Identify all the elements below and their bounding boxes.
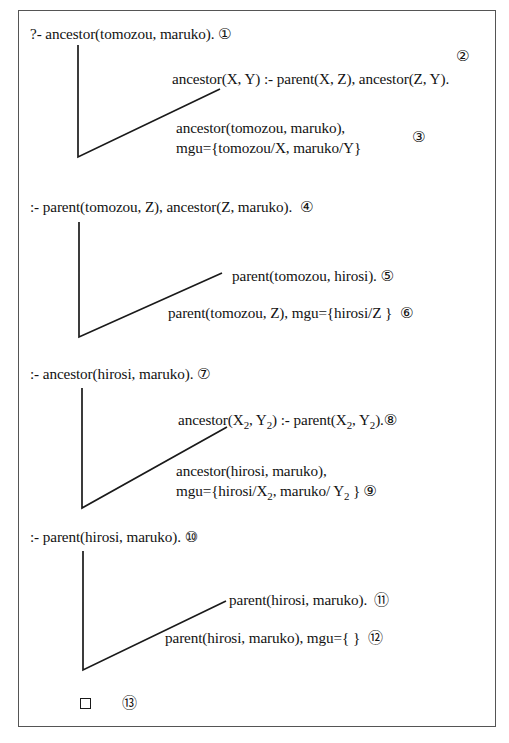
step-9-line-1: ancestor(hirosi, maruko), [176,461,377,481]
step-5-marker: ⑤ [381,267,394,286]
step-5-clause: parent(tomozou, hirosi). ⑤ [232,266,394,286]
step-9-line-2: mgu={hirosi/X2, maruko/ Y2 }⑨ [176,481,377,501]
step-13-marker-wrap: ⑬ [122,693,137,713]
step-6-text: parent(tomozou, Z), mgu={hirosi/Z } [168,304,392,321]
step-8-text-mid: , Y [249,411,267,428]
step-10-marker: ⑩ [185,528,198,547]
step-9-line2-pre: mgu={hirosi/X [176,482,267,499]
step-7-marker: ⑦ [197,365,210,384]
step-1-text: ?- ancestor(tomozou, maruko). [30,25,214,42]
step-6-marker: ⑥ [400,304,413,323]
step-11-clause: parent(hirosi, maruko). ⑪ [229,590,389,610]
step-2-marker-wrap: ② [456,47,469,65]
step-3-line-1: ancestor(tomozou, maruko), [176,118,361,138]
step-8-text-pre: ancestor(X [178,411,244,428]
step-3-marker: ③ [412,128,425,146]
step-3-unification: ancestor(tomozou, maruko), mgu={tomozou/… [176,118,361,158]
step-12-marker: ⑫ [368,629,383,648]
step-8-text-mid2: ) :- parent(X [272,411,347,428]
step-4-goal: :- parent(tomozou, Z), ancestor(Z, maruk… [30,197,313,217]
step-9-unification: ancestor(hirosi, maruko), mgu={hirosi/X2… [176,461,377,501]
step-1-goal: ?- ancestor(tomozou, maruko). ① [30,24,232,44]
step-9-line2-mid: , maruko/ Y [273,482,344,499]
step-7-goal: :- ancestor(hirosi, maruko). ⑦ [30,364,211,384]
step-4-text: :- parent(tomozou, Z), ancestor(Z, maruk… [30,198,292,215]
step-11-marker: ⑪ [374,591,389,610]
step-1-marker: ① [218,25,231,44]
step-3-marker-wrap: ③ [412,128,425,146]
step-13-marker: ⑬ [122,694,137,713]
empty-clause-box-icon [80,698,91,709]
step-12-text: parent(hirosi, maruko), mgu={ } [165,629,360,646]
step-12-unification: parent(hirosi, maruko), mgu={ } ⑫ [165,628,383,648]
step-8-text-post: ). [375,411,384,428]
step-11-text: parent(hirosi, maruko). [229,591,367,608]
step-10-goal: :- parent(hirosi, maruko). ⑩ [30,527,198,547]
step-10-text: :- parent(hirosi, maruko). [30,528,181,545]
step-2-text: ancestor(X, Y) :- parent(X, Z), ancestor… [172,70,449,87]
step-7-text: :- ancestor(hirosi, maruko). [30,365,193,382]
step-4-marker: ④ [300,198,313,217]
step-5-text: parent(tomozou, hirosi). [232,267,377,284]
step-2-clause: ancestor(X, Y) :- parent(X, Z), ancestor… [172,69,449,88]
step-3-line-2: mgu={tomozou/X, maruko/Y} [176,138,361,158]
step-2-marker: ② [456,47,469,65]
step-9-line2-post: } [349,482,360,499]
step-8-marker: ⑧ [384,411,397,430]
step-8-text-mid3: , Y [352,411,370,428]
derivation-diagram-page: ?- ancestor(tomozou, maruko). ① ② ancest… [0,0,509,743]
step-8-clause: ancestor(X2, Y2) :- parent(X2, Y2).⑧ [178,410,397,430]
step-6-unification: parent(tomozou, Z), mgu={hirosi/Z } ⑥ [168,303,413,323]
step-9-marker: ⑨ [363,481,376,501]
